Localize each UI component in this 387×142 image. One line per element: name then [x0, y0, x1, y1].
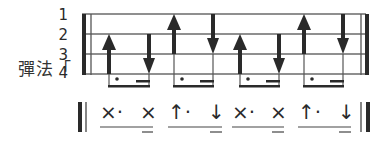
notation-5: ×·: [232, 100, 255, 124]
end-barline: [365, 14, 369, 75]
notation-7: ↑·: [298, 100, 321, 124]
staff-lines: [82, 14, 366, 74]
rhythm-beams: [108, 77, 344, 87]
start-barline: [82, 14, 86, 75]
notation-4: ↓: [208, 100, 225, 124]
notation-2: ×: [140, 100, 157, 124]
notation-3: ↑·: [168, 100, 191, 124]
notation-1: ×·: [100, 100, 123, 124]
notation-6: ×: [270, 100, 287, 124]
strum-arrows: [102, 14, 349, 74]
strum-tab-staff: [0, 0, 387, 142]
notation-8: ↓: [338, 100, 355, 124]
